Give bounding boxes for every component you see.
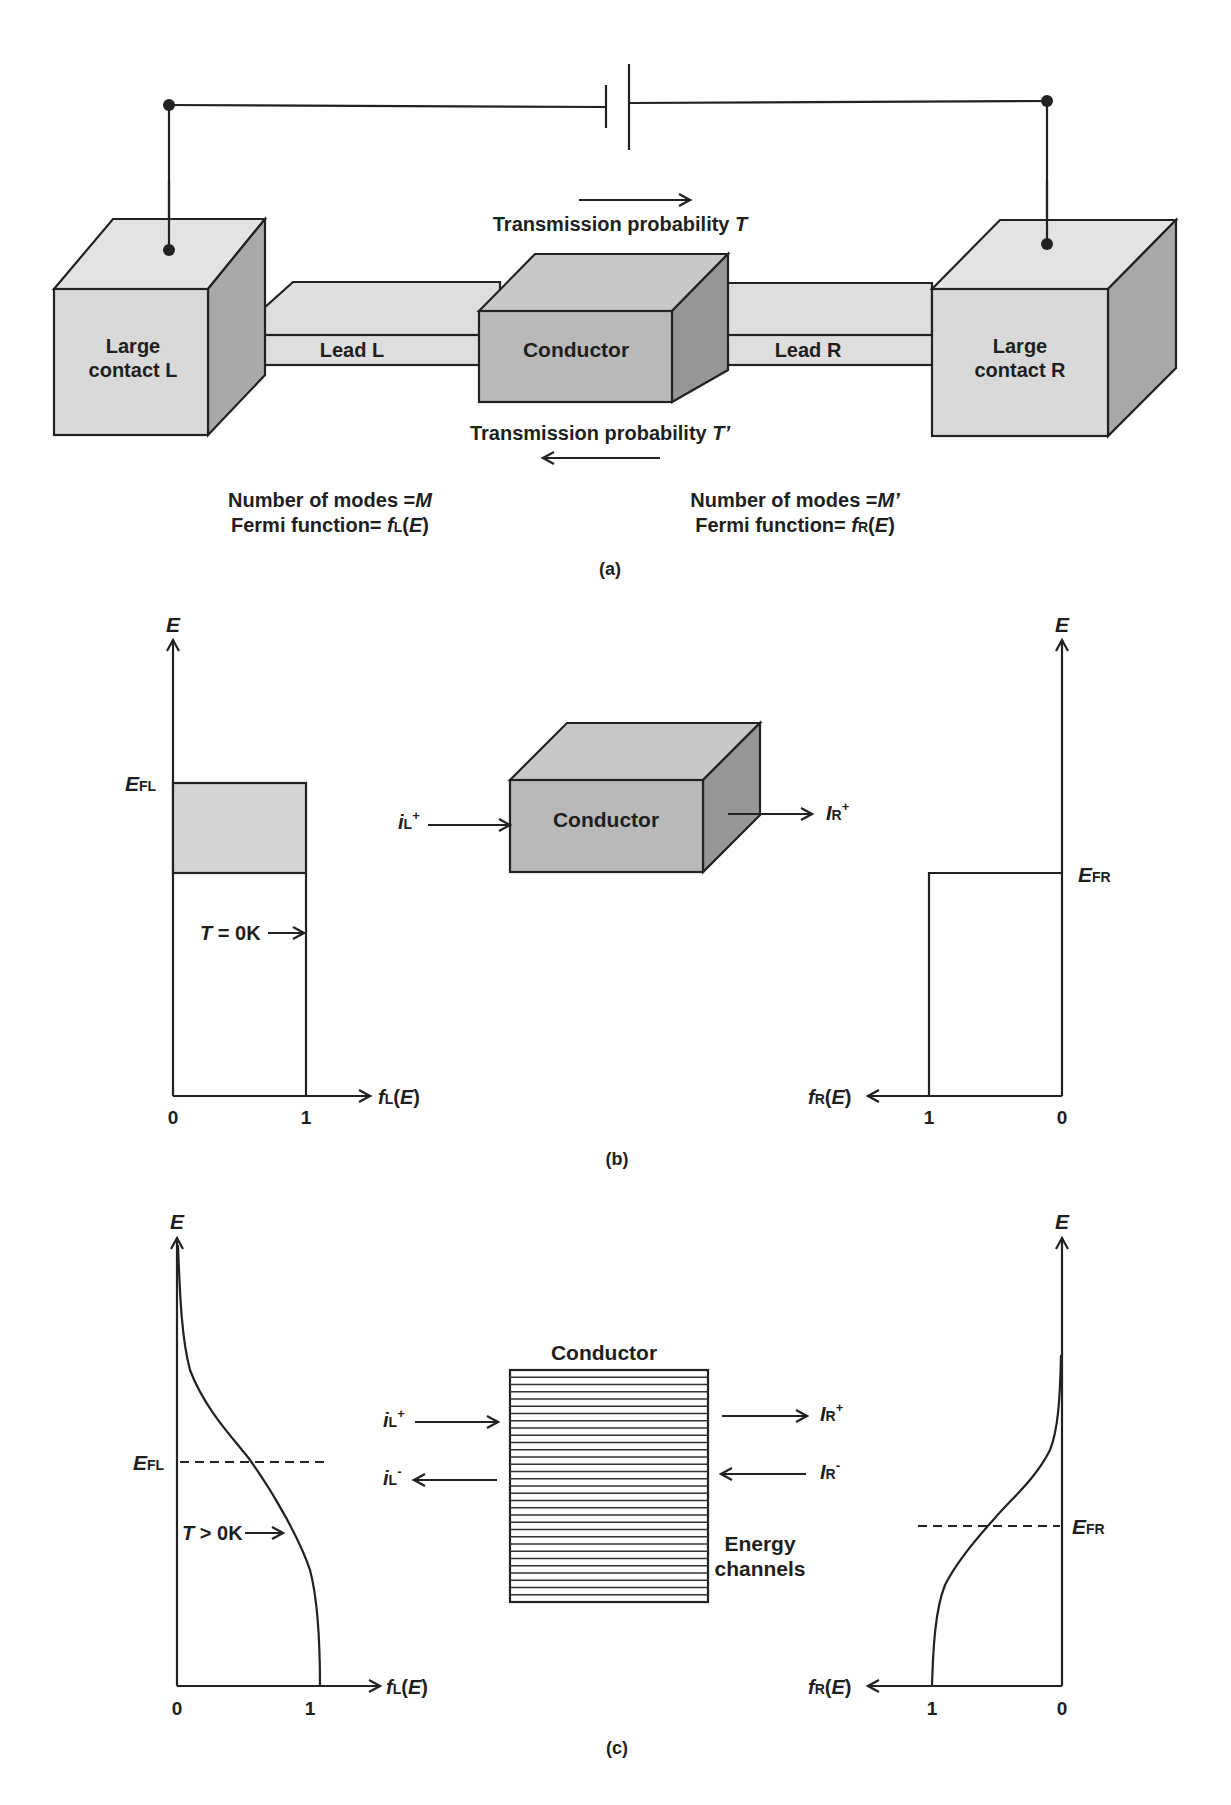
tick-1: 1 <box>305 1698 316 1719</box>
current-ir-plus-label: IR+ <box>820 1400 844 1425</box>
svg-text:Fermi function= fL(E): Fermi function= fL(E) <box>231 514 429 536</box>
contact-right-label-1: Large <box>993 335 1047 357</box>
left-contact-info: Number of modes =M Fermi function= fL(E) <box>228 489 433 536</box>
conductor-label-c: Conductor <box>551 1341 657 1364</box>
transmission-backward-label: Transmission probability T’ <box>470 422 730 444</box>
fermi-plot-right-0K: E EFR fR(E) 1 0 <box>808 613 1111 1128</box>
landauer-transport-figure: Transmission probability T Lead L Lead R… <box>0 0 1231 1805</box>
contact-left-label-1: Large <box>106 335 160 357</box>
x-axis-label-left: fL(E) <box>378 1086 420 1108</box>
contact-right-label-2: contact R <box>974 359 1066 381</box>
current-il-plus-label: iL+ <box>383 1406 405 1431</box>
tick-1: 1 <box>927 1698 938 1719</box>
current-ir-plus-label: IR+ <box>826 799 850 824</box>
temperature-label: T = 0K <box>200 922 261 944</box>
fermi-dirac-curve-right <box>932 1355 1061 1686</box>
conductor-block-b: Conductor <box>428 723 812 872</box>
fermi-plot-left-warm: E EFL T > 0K fL(E) 0 1 <box>133 1210 428 1719</box>
caption-a: (a) <box>599 559 621 579</box>
fermi-level-right-label: EFR <box>1072 1515 1105 1538</box>
svg-text:Fermi function= fR(E): Fermi function= fR(E) <box>695 514 895 536</box>
transmission-forward-label: Transmission probability T <box>493 213 749 235</box>
conductor-label-a: Conductor <box>523 338 629 361</box>
current-il-minus-label: iL- <box>383 1464 401 1489</box>
panel-a: Transmission probability T Lead L Lead R… <box>54 64 1176 579</box>
fermi-dirac-curve-left <box>178 1245 320 1686</box>
fermi-plot-right-warm: E EFR fR(E) 1 0 <box>808 1210 1105 1719</box>
x-axis-label-right: fR(E) <box>808 1676 851 1698</box>
fermi-plot-left-0K: E EFL T = 0K fL(E) 0 1 <box>125 613 420 1128</box>
axis-e-label: E <box>1055 613 1070 636</box>
fermi-level-left-label: EFL <box>125 772 157 795</box>
battery-icon <box>606 64 629 150</box>
axis-e-label: E <box>170 1210 185 1233</box>
caption-c: (c) <box>606 1738 628 1758</box>
temperature-label: T > 0K <box>182 1522 243 1544</box>
terminal-dot-icon <box>1041 95 1053 107</box>
svg-text:Number of modes =M: Number of modes =M <box>228 489 433 511</box>
svg-text:Number of modes =M’: Number of modes =M’ <box>690 489 900 511</box>
panel-c: E EFL T > 0K fL(E) 0 1 Conductor Energy … <box>133 1210 1105 1758</box>
filled-states-region <box>173 783 306 873</box>
contact-left-label-2: contact L <box>89 359 178 381</box>
energy-channels-label-1: Energy <box>724 1532 796 1555</box>
fermi-level-left-label: EFL <box>133 1451 165 1474</box>
large-contact-right: Large contact R <box>932 180 1176 436</box>
tick-0: 0 <box>1057 1107 1068 1128</box>
tick-0: 0 <box>172 1698 183 1719</box>
lead-left-label: Lead L <box>320 339 384 361</box>
energy-channels-conductor <box>510 1370 708 1602</box>
large-contact-left: Large contact L <box>54 180 265 435</box>
current-il-plus-label: iL+ <box>398 808 420 833</box>
lead-right-label: Lead R <box>775 339 842 361</box>
x-axis-label-left: fL(E) <box>386 1676 428 1698</box>
caption-b: (b) <box>606 1149 629 1169</box>
right-contact-info: Number of modes =M’ Fermi function= fR(E… <box>690 489 900 536</box>
terminal-dot-icon <box>163 99 175 111</box>
current-ir-minus-label: IR- <box>820 1458 840 1483</box>
axis-e-label: E <box>166 613 181 636</box>
fermi-level-right-label: EFR <box>1078 863 1111 886</box>
axis-e-label: E <box>1055 1210 1070 1233</box>
lead-left-top <box>234 282 500 335</box>
tick-1: 1 <box>301 1107 312 1128</box>
panel-b: E EFL T = 0K fL(E) 0 1 Conductor iL+ IR+… <box>125 613 1111 1169</box>
energy-channels-label-2: channels <box>714 1557 805 1580</box>
x-axis-label-right: fR(E) <box>808 1086 851 1108</box>
tick-0: 0 <box>1057 1698 1068 1719</box>
conductor-label-b: Conductor <box>553 808 659 831</box>
tick-1: 1 <box>924 1107 935 1128</box>
tick-0: 0 <box>168 1107 179 1128</box>
conductor-block-a: Conductor <box>479 254 728 402</box>
